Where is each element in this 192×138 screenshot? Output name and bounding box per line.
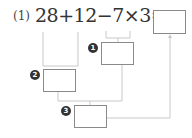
step-2-badge: 2 — [30, 70, 40, 80]
step-3-box[interactable] — [74, 105, 107, 128]
step-1-box[interactable] — [101, 42, 134, 65]
problem-number: (1) — [13, 9, 30, 23]
answer-box[interactable] — [153, 10, 186, 34]
step-3-badge: 3 — [61, 106, 71, 116]
step-1-badge: 1 — [88, 43, 98, 53]
math-expression: 28+12−7×3= — [35, 4, 166, 26]
step-2-box[interactable] — [43, 69, 76, 92]
